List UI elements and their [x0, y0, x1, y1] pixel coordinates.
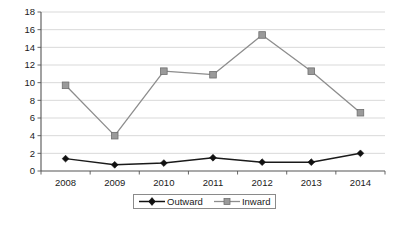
y-tick-label: 6 — [30, 112, 35, 123]
chart-plot-area: 024681012141618 200820092010201120122013… — [0, 0, 393, 225]
data-point-inward — [62, 82, 69, 89]
x-tick-label: 2008 — [55, 177, 76, 188]
y-tick-label: 18 — [24, 6, 35, 17]
data-point-inward — [357, 109, 364, 116]
y-tick-label: 2 — [30, 148, 35, 159]
data-point-outward — [357, 150, 364, 157]
legend-item-outward: Outward — [139, 196, 203, 207]
series-markers-outward — [62, 150, 364, 168]
x-tick-label: 2013 — [301, 177, 322, 188]
y-tick-label: 4 — [30, 130, 35, 141]
data-point-outward — [160, 160, 167, 167]
y-axis-tick-labels: 024681012141618 — [24, 6, 35, 176]
data-point-inward — [259, 32, 266, 39]
x-tick-label: 2009 — [104, 177, 125, 188]
square-marker-icon — [214, 196, 240, 207]
legend-item-inward: Inward — [214, 196, 271, 207]
series-markers-inward — [62, 32, 363, 139]
y-tick-label: 10 — [24, 77, 35, 88]
y-tick-label: 16 — [24, 24, 35, 35]
y-tick-label: 0 — [30, 165, 35, 176]
y-tick-label: 8 — [30, 95, 35, 106]
data-point-inward — [210, 71, 217, 78]
data-point-inward — [161, 68, 168, 75]
legend-label-outward: Outward — [167, 197, 203, 207]
line-chart: 024681012141618 200820092010201120122013… — [0, 0, 393, 225]
data-point-outward — [308, 159, 315, 166]
diamond-marker-icon — [139, 196, 165, 207]
x-axis-tick-labels: 2008200920102011201220132014 — [55, 177, 371, 188]
x-tick-label: 2014 — [350, 177, 371, 188]
series-line-inward — [66, 35, 361, 136]
y-tick-label: 14 — [24, 42, 35, 53]
data-point-outward — [210, 154, 217, 161]
legend-label-inward: Inward — [242, 197, 271, 207]
chart-legend: Outward Inward — [133, 194, 276, 209]
gridlines-group — [41, 12, 385, 153]
data-point-outward — [259, 159, 266, 166]
data-point-outward — [111, 161, 118, 168]
y-tick-label: 12 — [24, 59, 35, 70]
data-point-inward — [111, 132, 118, 139]
x-tick-label: 2010 — [153, 177, 174, 188]
x-tick-label: 2011 — [203, 177, 223, 188]
data-point-outward — [62, 155, 69, 162]
data-point-inward — [308, 68, 315, 75]
x-tick-label: 2012 — [252, 177, 273, 188]
